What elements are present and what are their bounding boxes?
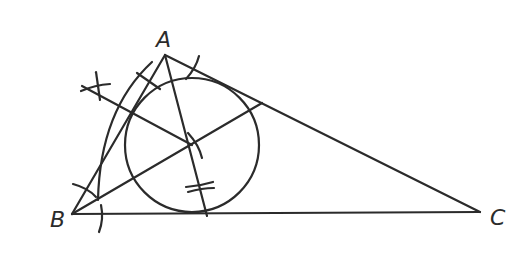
arc-mark-bottom-1: [186, 182, 213, 187]
label-c: C: [490, 205, 506, 230]
geometry-diagram: A B C: [0, 0, 529, 255]
arc-mark-b-2: [99, 205, 102, 232]
label-b: B: [50, 207, 65, 232]
arc-mark-ab: [137, 73, 160, 89]
side-bc: [72, 212, 480, 214]
compass-arc-large: [98, 62, 152, 200]
label-a: A: [154, 27, 171, 52]
